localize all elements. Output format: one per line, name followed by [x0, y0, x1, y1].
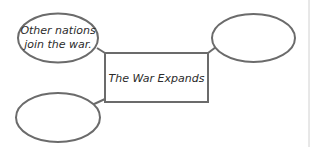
- web-organizer-diagram: The War Expands Other nations join the w…: [0, 0, 314, 147]
- node-top-right: [212, 14, 295, 62]
- node-top-left-line-2: join the war.: [22, 38, 92, 51]
- node-bottom-left: [16, 93, 100, 142]
- center-label: The War Expands: [109, 72, 205, 85]
- node-top-left-line-1: Other nations: [20, 24, 96, 37]
- connector-top-left: [97, 48, 105, 53]
